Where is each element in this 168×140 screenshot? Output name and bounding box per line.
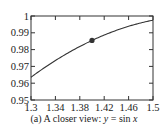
x-tick-label: 1.46 (119, 102, 137, 112)
chart: 1.31.341.381.421.461.50.950.960.970.980.… (0, 0, 168, 112)
x-tick-label: 1.34 (46, 102, 65, 112)
chart-caption: (a) A closer view: y = sin x (0, 113, 168, 124)
axis-tick-labels: 1.31.341.381.421.461.50.950.960.970.980.… (11, 11, 160, 113)
y-tick-label: 1 (24, 11, 29, 22)
axis-ticks (31, 16, 153, 100)
y-tick-label: 0.97 (11, 61, 29, 72)
caption-eq: = sin (108, 113, 133, 124)
y-tick-label: 0.96 (11, 78, 29, 89)
marked-point (89, 38, 94, 43)
x-tick-label: 1.5 (146, 102, 159, 112)
caption-prefix: (a) A closer view: (30, 113, 103, 124)
plot-border (31, 16, 153, 100)
x-tick-label: 1.38 (71, 102, 89, 112)
y-tick-label: 0.95 (11, 95, 29, 106)
y-tick-label: 0.99 (11, 27, 29, 38)
caption-x: x (133, 113, 137, 124)
sine-curve (31, 20, 153, 77)
y-tick-label: 0.98 (11, 44, 29, 55)
x-tick-label: 1.42 (95, 102, 113, 112)
plot-frame (31, 16, 153, 100)
